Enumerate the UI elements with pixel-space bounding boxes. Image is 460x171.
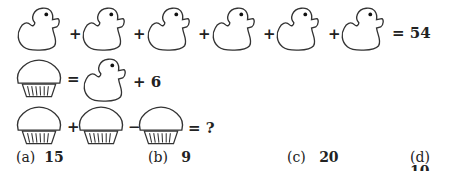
option-c[interactable]: (c) 20 [287, 150, 339, 164]
row2-suffix: + 6 [133, 75, 161, 90]
option-d[interactable]: (d) 10 [410, 150, 460, 171]
option-a[interactable]: (a) 15 [16, 150, 64, 164]
row1-result: = 54 [392, 26, 431, 41]
duck-icon [209, 4, 259, 52]
equals-operator: = [67, 72, 80, 87]
muffin-icon [136, 104, 186, 152]
option-value: 15 [44, 149, 63, 165]
muffin-icon [14, 104, 64, 152]
duck-icon [79, 4, 129, 52]
option-label: (b) [148, 149, 168, 165]
muffin-icon [76, 104, 126, 152]
duck-icon [80, 55, 130, 103]
option-value: 9 [181, 149, 191, 165]
row3-result: = ? [188, 121, 215, 136]
option-label: (a) [16, 149, 35, 165]
duck-icon [273, 4, 323, 52]
option-value: 20 [319, 149, 338, 165]
option-value: 10 [410, 163, 429, 171]
option-b[interactable]: (b) 9 [148, 150, 191, 164]
duck-icon [144, 4, 194, 52]
option-label: (c) [287, 149, 306, 165]
duck-icon [338, 4, 388, 52]
duck-icon [14, 4, 64, 52]
muffin-icon [14, 57, 64, 105]
